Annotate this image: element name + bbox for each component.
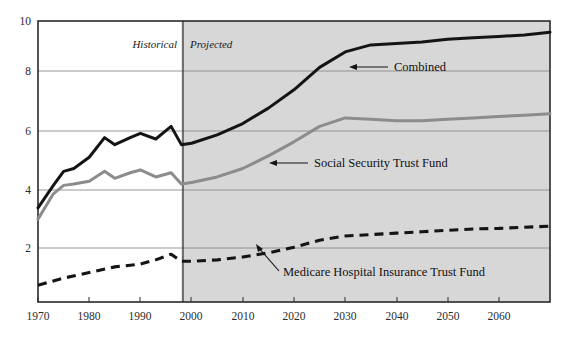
- x-tick-label-2030: 2030: [334, 310, 357, 322]
- x-tick-label-1980: 1980: [78, 310, 101, 322]
- trust-fund-line-chart: 10 8 6 4 2 1970 1980 1990 2000 2010 2020…: [0, 0, 565, 344]
- y-tick-label-10: 10: [20, 15, 32, 27]
- x-tick-label-1970: 1970: [27, 310, 50, 322]
- x-tick-label-2050: 2050: [437, 310, 460, 322]
- y-tick-label-8: 8: [25, 65, 31, 77]
- projected-region-label: Projected: [189, 38, 233, 50]
- medicare-annotation-label: Medicare Hospital Insurance Trust Fund: [283, 265, 486, 279]
- social-security-annotation-label: Social Security Trust Fund: [314, 156, 448, 170]
- y-tick-label-2: 2: [25, 242, 31, 254]
- combined-annotation-label: Combined: [394, 60, 447, 74]
- y-tick-label-4: 4: [25, 184, 31, 196]
- y-tick-label-6: 6: [25, 125, 31, 137]
- x-tick-label-2010: 2010: [232, 310, 255, 322]
- x-tick-label-2060: 2060: [488, 310, 511, 322]
- x-tick-label-1990: 1990: [129, 310, 152, 322]
- x-axis-labels: 1970 1980 1990 2000 2010 2020 2030 2040 …: [27, 310, 511, 322]
- x-tick-label-2020: 2020: [283, 310, 306, 322]
- historical-region-label: Historical: [131, 38, 177, 50]
- x-tick-label-2040: 2040: [386, 310, 409, 322]
- y-axis-labels: 10 8 6 4 2: [20, 15, 32, 254]
- x-tick-label-2000: 2000: [180, 310, 203, 322]
- chart-container: 10 8 6 4 2 1970 1980 1990 2000 2010 2020…: [0, 0, 565, 344]
